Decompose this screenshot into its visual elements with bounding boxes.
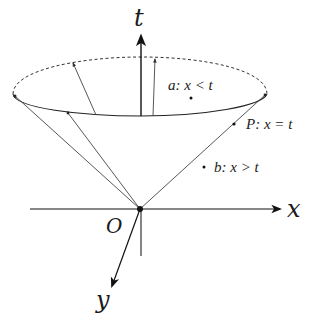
light-cone-diagram: t x y O a: x < t P: x = t b: x > t: [0, 0, 311, 320]
cone-lines: [15, 95, 265, 209]
point-P-dot: [232, 122, 235, 125]
point-a-label: a: x < t: [168, 77, 214, 93]
origin-label: O: [106, 214, 122, 238]
point-P-label: P: x = t: [245, 116, 293, 132]
point-a-dot: [190, 97, 193, 100]
cone-rim-front-solid: [13, 94, 267, 116]
rim-dot-left: [14, 95, 17, 98]
y-axis-label: y: [95, 286, 110, 314]
rim-dot-inner: [67, 112, 70, 115]
cone-line-inner-left: [68, 113, 140, 209]
cone-rim: [13, 57, 267, 116]
rim-dot-right: [264, 94, 267, 97]
point-b-dot: [203, 166, 206, 169]
cone-line-right: [140, 95, 265, 209]
inner-arrow-right: [153, 59, 155, 116]
t-axis-label: t: [134, 4, 144, 32]
inner-arrows: [73, 59, 155, 116]
origin-dot: [137, 206, 143, 212]
x-axis-label: x: [287, 195, 301, 223]
cone-rim-back-dashed: [13, 57, 267, 94]
point-b-label: b: x > t: [214, 159, 260, 175]
inner-arrow-left: [73, 63, 96, 115]
